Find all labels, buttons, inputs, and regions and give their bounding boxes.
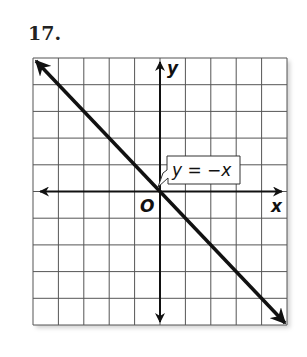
x-axis-label: x — [270, 196, 283, 216]
equation-callout: y = −x — [158, 156, 240, 187]
coordinate-graph: y x O y = −x — [0, 0, 307, 357]
y-axis-label: y — [167, 58, 179, 78]
origin-label: O — [140, 196, 154, 216]
equation-label: y = −x — [171, 160, 232, 180]
